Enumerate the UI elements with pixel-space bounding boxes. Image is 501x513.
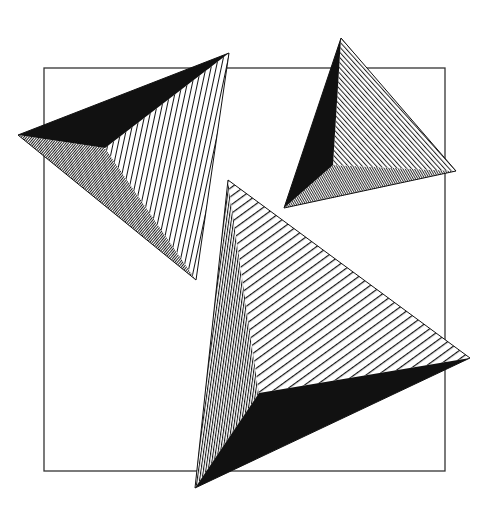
artwork-svg [0,0,501,513]
pyramid-large [195,180,470,488]
pyramid-upper-right [284,38,456,208]
artwork-canvas: Three hatched pyramids over a square fra… [0,0,501,513]
pyramid-upper-right-right-face [333,38,456,171]
pyramid-large-top-face [228,180,470,393]
pyramid-upper-left [18,53,229,280]
